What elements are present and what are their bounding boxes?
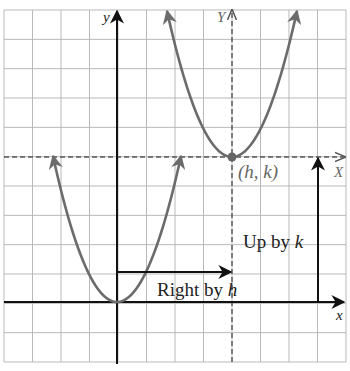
vertex-label: (h, k)	[238, 161, 278, 183]
x-axis-label: x	[335, 307, 343, 323]
shifted-y-axis-label: Y	[217, 9, 227, 25]
shifted-x-axis-label: X	[333, 164, 344, 180]
y-axis-label: y	[101, 9, 110, 25]
right-shift-label: Right by h	[157, 279, 237, 300]
parabola-shift-diagram: y x Y X (h, k) Right by h Up by k	[0, 0, 350, 371]
up-shift-label: Up by k	[243, 231, 304, 252]
vertex-point	[228, 153, 237, 162]
